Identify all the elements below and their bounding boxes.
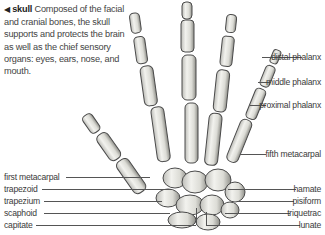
leader-line-triquetrac bbox=[225, 213, 290, 214]
leader-line-trapezium bbox=[44, 201, 162, 202]
leader-line-lunate-vertical bbox=[206, 212, 207, 225]
leader-line-first-metacarpal bbox=[66, 177, 150, 178]
label-trapezoid: trapezoid bbox=[4, 184, 38, 194]
label-triquetrac: triquetrac bbox=[287, 208, 321, 218]
leader-line-fifth-metacarpal bbox=[240, 154, 266, 155]
leader-line-lunate bbox=[206, 225, 300, 226]
leader-line-pisiform bbox=[238, 201, 294, 202]
label-distal-phalanx: distal phalanx bbox=[271, 52, 321, 62]
label-pisiform: pisiform bbox=[293, 196, 321, 206]
hand-skeleton-illustration bbox=[0, 0, 325, 235]
label-middle-phalanx: middle phalanx bbox=[266, 77, 321, 87]
label-proximal-phalanx: proximal phalanx bbox=[259, 100, 321, 110]
leader-line-scaphoid bbox=[44, 213, 170, 214]
label-first-metacarpal: first metacarpal bbox=[4, 172, 60, 182]
label-fifth-metacarpal: fifth metacarpal bbox=[265, 149, 321, 159]
label-scaphoid: scaphoid bbox=[4, 208, 37, 218]
leader-line-capitate-vertical bbox=[196, 208, 197, 225]
label-lunate: lunate bbox=[299, 220, 321, 230]
leader-line-trapezoid bbox=[42, 189, 172, 190]
leader-line-hamate bbox=[228, 189, 296, 190]
label-hamate: hamate bbox=[294, 184, 321, 194]
label-trapezium: trapezium bbox=[4, 196, 40, 206]
label-capitate: capitate bbox=[4, 220, 33, 230]
leader-line-capitate bbox=[36, 225, 196, 226]
